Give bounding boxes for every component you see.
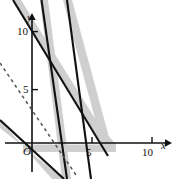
graph-figure: y x O 10 5 5 10 [0,0,174,179]
y-tick-label-5: 5 [23,84,29,95]
x-tick-label-10: 10 [142,147,153,158]
y-axis-label: y [27,12,32,23]
y-tick-label-10: 10 [17,26,28,37]
x-tick-label-5: 5 [86,147,92,158]
origin-label: O [23,146,31,157]
boundary-line-1 [42,0,68,179]
x-axis-label: x [161,140,166,151]
x-axis-arrowhead [165,139,172,146]
